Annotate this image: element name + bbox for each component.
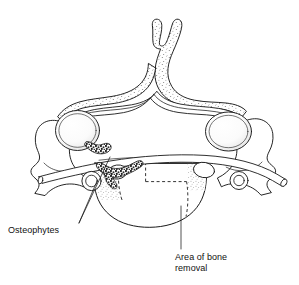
label-area-of-bone-removal: Area of boneremoval [175, 252, 227, 273]
label-osteophytes: Osteophytes [8, 225, 59, 236]
transverse-foramen-left [82, 171, 101, 190]
cervical-vertebra-illustration [0, 0, 299, 285]
posterior-arch-and-spinous-process [58, 19, 247, 122]
osteophyte-left-shape [85, 142, 111, 154]
facet-right-outer [206, 112, 252, 151]
transverse-foramen-right [230, 172, 248, 190]
superior-articular-facet-right [206, 112, 252, 151]
transverse-foramen-right-inner [234, 175, 244, 185]
figure-container: Osteophytes Area of boneremoval [0, 0, 299, 285]
label-bone-removal-line2: removal [175, 263, 207, 273]
label-bone-removal-line1: Area of bone [175, 252, 227, 262]
osteophyte-mass-left [85, 142, 111, 154]
